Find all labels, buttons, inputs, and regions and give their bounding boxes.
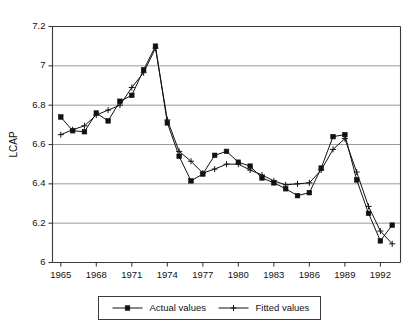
data-point-marker bbox=[366, 211, 371, 216]
data-point-marker bbox=[390, 223, 395, 228]
data-point-marker bbox=[212, 153, 217, 158]
legend-label: Fitted values bbox=[256, 302, 310, 313]
x-axis-tick-labels: 1965196819711974197719801983198619891992 bbox=[50, 269, 391, 280]
x-tick-label: 1980 bbox=[228, 269, 249, 280]
x-tick-label: 1977 bbox=[192, 269, 213, 280]
data-point-marker bbox=[212, 166, 218, 172]
data-point-marker bbox=[58, 115, 63, 120]
x-tick-label: 1971 bbox=[121, 269, 142, 280]
legend-label: Actual values bbox=[150, 302, 207, 313]
y-tick-label: 7 bbox=[40, 59, 45, 70]
x-tick-label: 1992 bbox=[370, 269, 391, 280]
data-point-marker bbox=[58, 132, 64, 138]
y-axis-title: LCAP bbox=[8, 131, 19, 157]
data-point-marker bbox=[295, 193, 300, 198]
series-polyline bbox=[61, 46, 392, 241]
y-tick-label: 6 bbox=[40, 256, 45, 267]
x-tick-label: 1965 bbox=[50, 269, 71, 280]
x-tick-label: 1989 bbox=[334, 269, 355, 280]
data-point-marker bbox=[224, 161, 230, 167]
line-chart: 66.26.46.66.877.2 1965196819711974197719… bbox=[0, 0, 418, 330]
x-tick-label: 1968 bbox=[86, 269, 107, 280]
y-axis-tick-labels: 66.26.46.66.877.2 bbox=[32, 20, 45, 267]
data-point-marker bbox=[224, 149, 229, 154]
gridlines bbox=[53, 27, 401, 224]
y-tick-label: 6.6 bbox=[32, 138, 45, 149]
data-point-marker bbox=[105, 107, 111, 113]
data-point-marker bbox=[378, 239, 383, 244]
series-actual-values bbox=[58, 44, 394, 243]
data-point-marker bbox=[82, 129, 87, 134]
x-tick-label: 1986 bbox=[299, 269, 320, 280]
x-tick-label: 1983 bbox=[263, 269, 284, 280]
x-tick-label: 1974 bbox=[157, 269, 178, 280]
y-tick-label: 7.2 bbox=[32, 20, 45, 31]
series-polyline bbox=[61, 48, 392, 244]
data-point-marker bbox=[354, 178, 359, 183]
series-fitted-values bbox=[58, 45, 395, 247]
data-point-marker bbox=[331, 134, 336, 139]
data-point-marker bbox=[307, 190, 312, 195]
y-axis bbox=[49, 27, 53, 263]
data-point-marker bbox=[177, 154, 182, 159]
chart-legend: Actual valuesFitted values bbox=[99, 297, 321, 320]
data-point-marker bbox=[189, 179, 194, 184]
data-point-marker bbox=[106, 119, 111, 124]
y-tick-label: 6.8 bbox=[32, 99, 45, 110]
y-tick-label: 6.4 bbox=[32, 177, 45, 188]
data-point-marker bbox=[125, 306, 130, 311]
data-point-marker bbox=[130, 93, 135, 98]
y-axis-title: LCAP bbox=[8, 131, 19, 157]
chart-figure: 66.26.46.66.877.2 1965196819711974197719… bbox=[0, 0, 418, 330]
y-tick-label: 6.2 bbox=[32, 217, 45, 228]
data-point-marker bbox=[295, 181, 301, 187]
